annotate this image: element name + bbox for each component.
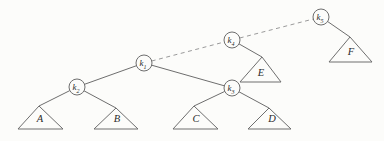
edge-k1-k2: [85, 66, 137, 85]
edge-k4-E: [239, 44, 262, 57]
edge-k5-F: [328, 22, 350, 38]
edge-k1-k4: [152, 42, 225, 61]
edge-k4-k5: [240, 19, 314, 38]
subtree-label-A: A: [36, 113, 44, 124]
tree-figure: ABCDEFk1k2k3k4k5: [0, 0, 384, 141]
subtree-label-E: E: [257, 67, 265, 78]
edge-k2-A: [39, 91, 70, 106]
edge-k1-k3: [152, 65, 225, 86]
subtree-label-C: C: [192, 113, 200, 124]
edge-k3-D: [239, 92, 269, 108]
edge-k3-C: [194, 91, 225, 106]
subtree-label-D: D: [267, 113, 276, 124]
subtree-label-F: F: [347, 46, 355, 57]
tree-diagram-svg: ABCDEFk1k2k3k4k5: [0, 0, 384, 141]
edge-k2-B: [84, 91, 116, 108]
subtree-label-B: B: [114, 113, 121, 124]
